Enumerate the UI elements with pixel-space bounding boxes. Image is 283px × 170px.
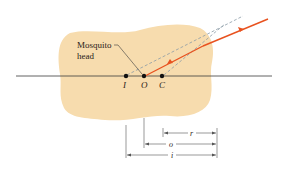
amber-block	[59, 24, 213, 120]
annotation-line1: Mosquito	[77, 40, 112, 50]
dimension-label-r: r	[190, 129, 194, 138]
dimension-label-i: i	[171, 151, 173, 160]
dimension-r: r	[164, 129, 216, 138]
label-O: O	[141, 80, 148, 90]
point-O	[142, 74, 146, 78]
annotation-line2: head	[77, 51, 94, 61]
dimension-label-o: o	[169, 140, 173, 149]
point-I	[124, 74, 128, 78]
refraction-diagram: I O C Mosquito head r o i	[0, 0, 283, 170]
ray-outside	[203, 19, 268, 46]
dimension-i: i	[127, 151, 216, 160]
point-C	[160, 74, 164, 78]
label-C: C	[159, 80, 166, 90]
dimension-o: o	[145, 140, 216, 149]
